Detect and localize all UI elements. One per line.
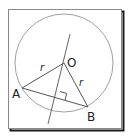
geometry-diagram: O A B r r xyxy=(0,0,131,138)
frame xyxy=(9,10,122,129)
label-B: B xyxy=(87,110,95,124)
label-O: O xyxy=(67,56,76,70)
label-A: A xyxy=(12,87,21,101)
diagram-canvas: O A B r r xyxy=(0,0,131,138)
